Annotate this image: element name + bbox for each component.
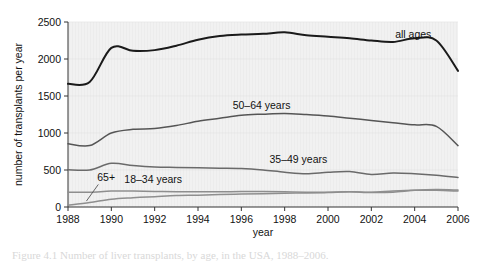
x-tick-label: 2006 [446, 213, 470, 225]
x-tick-label: 1990 [100, 213, 124, 225]
series-label-2: 35–49 years [270, 153, 328, 165]
y-tick-label: 0 [55, 201, 61, 213]
series-label-1: 50–64 years [233, 99, 291, 111]
x-tick-label: 2000 [316, 213, 340, 225]
y-tick-label: 2000 [38, 53, 62, 65]
x-tick-label: 2002 [360, 213, 384, 225]
line-chart: 05001000150020002500 1988199019921994199… [0, 0, 485, 240]
x-tick-label: 1996 [230, 213, 254, 225]
y-tick-label: 500 [43, 164, 61, 176]
y-tick-label: 2500 [38, 16, 62, 28]
y-tick-label: 1000 [38, 127, 62, 139]
series-label-0: all ages [395, 28, 431, 40]
chart-plot-area: 05001000150020002500 1988199019921994199… [0, 0, 485, 240]
x-tick-label: 1992 [143, 213, 167, 225]
x-tick-label: 2004 [403, 213, 427, 225]
figure-caption: Figure 4.1 Number of liver transplants, … [12, 249, 472, 261]
y-tick-label: 1500 [38, 90, 62, 102]
y-axis-title: number of transplants per year [12, 43, 24, 186]
x-tick-label: 1988 [56, 213, 80, 225]
x-tick-label: 1998 [273, 213, 297, 225]
series-label-4: 65+ [97, 171, 115, 183]
x-tick-label: 1994 [186, 213, 210, 225]
x-axis-title: year [253, 226, 274, 238]
series-label-3: 18–34 years [124, 173, 182, 185]
figure-container: 05001000150020002500 1988199019921994199… [0, 0, 485, 261]
